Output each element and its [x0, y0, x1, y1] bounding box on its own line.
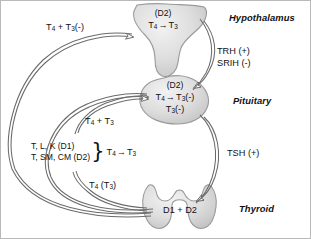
thyroid-enzyme-label: D1 + D2	[149, 206, 211, 216]
plus-sign: +	[58, 22, 63, 32]
srih-label: SRIH (-)	[217, 59, 251, 69]
feedback-arrows	[8, 33, 153, 217]
brace-icon: }	[91, 143, 104, 160]
hyp-t3-subscript: 3	[174, 23, 178, 30]
feedback-hypothalamus-label: T4 + T3(-)	[46, 23, 84, 33]
peripheral-tissue-lines: T, L, K (D1) T, SM, CM (D2)	[31, 141, 90, 162]
pit-t3b-negative-sign: (-)	[175, 104, 184, 114]
hypothalamus-reaction-label: T4→T3	[129, 21, 197, 31]
hypothalamus-organ-label: Hypothalamus	[229, 13, 295, 23]
peripheral-reaction-label: T4→T3	[107, 147, 137, 157]
feedback-pituitary-label: T4 + T3	[85, 117, 114, 127]
hypothalamus-d2-text: (D2)	[155, 8, 172, 18]
t4-subscript: 4	[52, 25, 56, 32]
pituitary-organ-label: Pituitary	[233, 96, 271, 106]
negative-sign: (-)	[75, 22, 84, 32]
thyroid-d1d2-text: D1 + D2	[163, 205, 197, 215]
thyroid-organ-label: Thyroid	[239, 204, 274, 214]
fb-pit-plus-sign: +	[97, 116, 102, 126]
pit-negative-sign: (-)	[185, 92, 194, 102]
peripheral-tissue-line-2: T, SM, CM (D2)	[31, 152, 90, 163]
out-close-paren: )	[113, 180, 116, 190]
per-reaction-arrow-icon: →	[116, 147, 127, 157]
out-t4-subscript: 4	[95, 183, 99, 190]
pituitary-name-text: Pituitary	[233, 95, 271, 106]
hypothalamus-name-text: Hypothalamus	[229, 12, 295, 23]
srih-text: SRIH (-)	[217, 58, 251, 68]
pituitary-d2-text: (D2)	[167, 80, 184, 90]
hypothalamus-enzyme-label: (D2)	[132, 9, 194, 18]
hyp-reaction-arrow-icon: →	[157, 20, 168, 30]
pituitary-t3-label: T3(-)	[141, 105, 209, 115]
peripheral-tissue-line-1: T, L, K (D1)	[31, 141, 90, 152]
pituitary-enzyme-label: (D2)	[145, 81, 205, 90]
trh-label: TRH (+)	[217, 47, 250, 57]
per-t3-subscript: 3	[133, 150, 137, 157]
pituitary-reaction-label: T4→T3(-)	[137, 93, 213, 103]
thyroid-name-text: Thyroid	[239, 203, 274, 214]
trh-text: TRH (+)	[217, 46, 250, 56]
tsh-text: TSH (+)	[227, 148, 259, 158]
thyroid-output-label: T4 (T3)	[89, 181, 116, 191]
tsh-label: TSH (+)	[227, 149, 259, 159]
diagram-canvas: T4 + T3(-) (D2) T4→T3 Hypothalamus TRH (…	[0, 0, 311, 239]
fb-pit-t4-subscript: 4	[91, 119, 95, 126]
peripheral-tissues-group: T, L, K (D1) T, SM, CM (D2) } T4→T3	[31, 141, 136, 162]
fb-pit-t3-subscript: 3	[110, 119, 114, 126]
pit-reaction-arrow-icon: →	[165, 92, 176, 102]
